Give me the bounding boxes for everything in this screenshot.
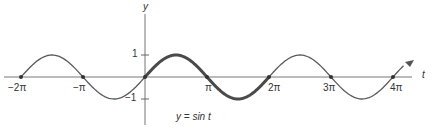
- tick-label-negpi: −π: [73, 82, 86, 93]
- zero-crossing-dot: [329, 75, 333, 79]
- tick-label-neg1: −1: [125, 92, 136, 103]
- tick-label-pi: π: [205, 82, 212, 93]
- tick-label-2pi: 2π: [268, 82, 280, 93]
- curve-arrowhead: [405, 60, 414, 67]
- zero-crossing-dot: [391, 75, 395, 79]
- zero-crossing-dot: [205, 75, 209, 79]
- tick-label-1: 1: [132, 48, 138, 59]
- x-axis-label: t: [422, 69, 425, 80]
- zero-crossing-dot: [81, 75, 85, 79]
- y-axis-label: y: [143, 1, 148, 12]
- tick-label-3pi: 3π: [323, 82, 335, 93]
- sine-chart: [0, 0, 435, 134]
- zero-crossing-dot: [19, 75, 23, 79]
- zero-crossing-dot: [267, 75, 271, 79]
- tick-label-neg2pi: −2π: [8, 82, 26, 93]
- equation-annotation: y = sin t: [176, 111, 211, 122]
- zero-crossing-dot: [143, 75, 147, 79]
- tick-label-4pi: 4π: [390, 82, 402, 93]
